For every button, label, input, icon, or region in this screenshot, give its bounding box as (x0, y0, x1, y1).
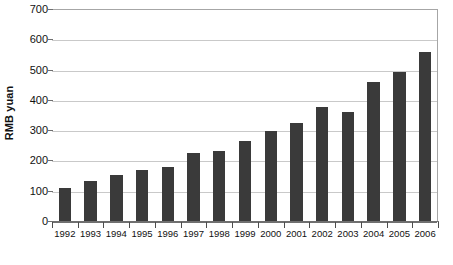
y-axis-tick-label: 400 (14, 94, 48, 105)
y-axis-tickmark (48, 130, 53, 131)
x-axis-tickmark (361, 222, 362, 228)
y-axis-tickmark (48, 100, 53, 101)
x-axis-tickmark (206, 222, 207, 228)
bar (265, 131, 277, 221)
y-axis-tickmark (48, 70, 53, 71)
bar (316, 107, 328, 221)
x-axis-tickmark (258, 222, 259, 228)
x-axis-tick-label: 2002 (312, 229, 333, 239)
x-axis-tick-label: 2003 (337, 229, 358, 239)
bar (187, 153, 199, 221)
x-axis-tickmark (155, 222, 156, 228)
bar-group (52, 9, 438, 221)
bar (342, 112, 354, 221)
x-axis-tick-label: 2005 (389, 229, 410, 239)
y-axis-tick-label: 700 (14, 4, 48, 15)
x-axis-tickmark (412, 222, 413, 228)
x-axis-tick-label: 1997 (183, 229, 204, 239)
y-axis-tick-label: 600 (14, 34, 48, 45)
y-axis-tick-label: 100 (14, 185, 48, 196)
x-axis-tick-label: 1998 (209, 229, 230, 239)
x-axis-tickmark (181, 222, 182, 228)
y-axis-tick-label: 0 (14, 216, 48, 227)
x-axis-tick-label: 2004 (363, 229, 384, 239)
y-axis-tickmark (48, 9, 53, 10)
y-axis-tick-label: 200 (14, 155, 48, 166)
x-axis-tickmark (438, 222, 439, 228)
bar (213, 151, 225, 221)
x-axis-tickmark (78, 222, 79, 228)
bar-chart-figure: RMB yuan 0100200300400500600700 19921993… (0, 0, 453, 265)
x-axis-tickmark (52, 222, 53, 228)
x-axis-tick-label: 2000 (260, 229, 281, 239)
bar (419, 52, 431, 221)
x-axis-tick-label-group: 1992199319941995199619971998199920002001… (52, 229, 438, 245)
y-axis-tickmark (48, 160, 53, 161)
bar (162, 167, 174, 222)
bar (367, 82, 379, 221)
x-axis-tick-label: 1995 (131, 229, 152, 239)
y-axis-tick-label: 500 (14, 64, 48, 75)
y-axis-tickmark (48, 39, 53, 40)
x-axis-tick-label: 1992 (54, 229, 75, 239)
x-axis-tickmark (232, 222, 233, 228)
x-axis-tickmark (129, 222, 130, 228)
bar (239, 141, 251, 221)
bar (290, 123, 302, 221)
bar (110, 175, 122, 221)
x-axis-tickmark (387, 222, 388, 228)
x-axis-tickmark (284, 222, 285, 228)
y-axis-tickmark (48, 191, 53, 192)
x-axis-tick-label: 1993 (80, 229, 101, 239)
x-axis-tick-label: 2001 (286, 229, 307, 239)
bar (59, 188, 71, 221)
x-axis-tick-label: 2006 (415, 229, 436, 239)
y-axis-tickmark (48, 221, 53, 222)
x-axis-tick-label: 1996 (157, 229, 178, 239)
x-axis-tickmark (309, 222, 310, 228)
bar (84, 181, 96, 221)
x-axis-tickmark (103, 222, 104, 228)
x-axis-tick-label: 1994 (106, 229, 127, 239)
bar (393, 72, 405, 221)
y-axis-tick-label: 300 (14, 125, 48, 136)
y-axis-tick-label-group: 0100200300400500600700 (14, 0, 48, 225)
bar (136, 170, 148, 221)
x-axis-tickmark (335, 222, 336, 228)
x-axis-tick-label: 1999 (234, 229, 255, 239)
